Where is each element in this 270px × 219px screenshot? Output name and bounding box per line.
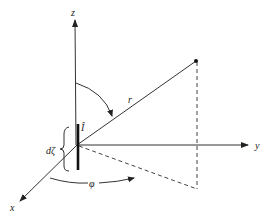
element-length-label: dζ [46, 145, 56, 157]
ground-projection-dashed [79, 146, 197, 189]
spherical-coordinates-diagram: z y x r Î dζ φ [0, 0, 270, 219]
y-axis-label: y [254, 140, 260, 151]
polar-angle-arc [76, 83, 112, 116]
diagram-canvas: z y x r Î dζ φ [0, 0, 270, 219]
element-length-brace [60, 127, 69, 171]
current-label: Î [80, 122, 85, 133]
azimuth-arc-end [99, 178, 134, 183]
azimuth-arc [50, 178, 88, 183]
azimuth-label: φ [89, 178, 95, 189]
radius-line [77, 61, 196, 145]
z-axis-label: z [70, 7, 75, 18]
x-axis-label: x [9, 202, 15, 213]
radius-label: r [128, 94, 132, 105]
z-axis [75, 20, 76, 145]
